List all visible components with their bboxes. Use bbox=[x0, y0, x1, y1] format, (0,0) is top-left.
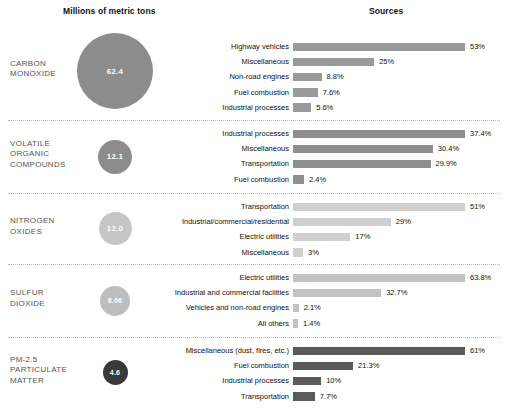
source-bar bbox=[293, 43, 465, 52]
source-row: Non-road engines8.8% bbox=[0, 71, 508, 82]
source-percent-value: 25% bbox=[379, 56, 394, 67]
section-divider bbox=[8, 264, 500, 265]
source-label: Electric utilities bbox=[239, 272, 289, 283]
source-bar bbox=[293, 392, 315, 401]
source-bar bbox=[293, 160, 431, 169]
source-percent-value: 3% bbox=[308, 247, 319, 258]
source-bar bbox=[293, 218, 391, 227]
source-label: All others bbox=[258, 318, 289, 329]
source-bar bbox=[293, 289, 381, 298]
source-row: Electric utilities17% bbox=[0, 231, 508, 242]
source-row: Fuel combustion2.4% bbox=[0, 174, 508, 185]
source-row: Transportation29.9% bbox=[0, 158, 508, 169]
source-label: Transportation bbox=[241, 201, 289, 212]
source-percent-value: 7.7% bbox=[320, 391, 337, 402]
section-divider bbox=[8, 337, 500, 338]
source-label: Industrial processes bbox=[222, 102, 289, 113]
source-percent-value: 17% bbox=[355, 231, 370, 242]
source-percent-value: 29.9% bbox=[436, 158, 457, 169]
source-label: Non-road engines bbox=[229, 71, 289, 82]
section-divider bbox=[8, 120, 500, 121]
source-row: Miscellaneous (dust, fires, etc.)61% bbox=[0, 345, 508, 356]
source-bar bbox=[293, 58, 374, 67]
source-bar bbox=[293, 362, 353, 371]
source-row: All others1.4% bbox=[0, 318, 508, 329]
source-label: Electric utilities bbox=[239, 231, 289, 242]
source-row: Industrial processes10% bbox=[0, 375, 508, 386]
source-percent-value: 8.8% bbox=[327, 71, 344, 82]
source-percent-value: 29% bbox=[396, 216, 411, 227]
source-percent-value: 30.4% bbox=[438, 143, 459, 154]
column-header-sources: Sources bbox=[369, 6, 403, 16]
source-label: Miscellaneous (dust, fires, etc.) bbox=[186, 345, 289, 356]
source-row: Miscellaneous30.4% bbox=[0, 143, 508, 154]
source-row: Industrial processes5.6% bbox=[0, 102, 508, 113]
chart-header: Millions of metric tons Sources bbox=[0, 0, 508, 22]
source-bar bbox=[293, 175, 304, 184]
source-label: Miscellaneous bbox=[241, 143, 289, 154]
source-label: Industrial/commercial/residential bbox=[182, 216, 289, 227]
source-label: Transportation bbox=[241, 158, 289, 169]
source-label: Industrial and commercial facilities bbox=[175, 287, 289, 298]
source-percent-value: 32.7% bbox=[386, 287, 407, 298]
source-percent-value: 63.8% bbox=[470, 272, 491, 283]
source-row: Fuel combustion21.3% bbox=[0, 360, 508, 371]
source-percent-value: 1.4% bbox=[303, 318, 320, 329]
source-bar bbox=[293, 145, 433, 154]
source-percent-value: 10% bbox=[326, 375, 341, 386]
emissions-infographic: Millions of metric tons Sources CARBON M… bbox=[0, 0, 508, 408]
source-label: Fuel combustion bbox=[234, 360, 289, 371]
source-row: Electric utilities63.8% bbox=[0, 272, 508, 283]
source-label: Industrial processes bbox=[222, 128, 289, 139]
source-bar bbox=[293, 130, 465, 139]
source-row: Transportation7.7% bbox=[0, 391, 508, 402]
source-row: Highway vehicles53% bbox=[0, 41, 508, 52]
source-percent-value: 37.4% bbox=[470, 128, 491, 139]
source-bar bbox=[293, 377, 321, 386]
source-label: Fuel combustion bbox=[234, 87, 289, 98]
source-label: Industrial processes bbox=[222, 375, 289, 386]
source-bar bbox=[293, 103, 311, 112]
source-row: Miscellaneous3% bbox=[0, 247, 508, 258]
source-row: Industrial and commercial facilities32.7… bbox=[0, 287, 508, 298]
source-label: Highway vehicles bbox=[231, 41, 289, 52]
source-percent-value: 2.1% bbox=[304, 302, 321, 313]
source-bar bbox=[293, 233, 350, 242]
source-label: Vehicles and non-road engines bbox=[186, 302, 289, 313]
source-row: Industrial/commercial/residential29% bbox=[0, 216, 508, 227]
source-bar bbox=[293, 88, 318, 97]
source-bar bbox=[293, 274, 465, 283]
source-label: Miscellaneous bbox=[241, 247, 289, 258]
source-label: Transportation bbox=[241, 391, 289, 402]
source-percent-value: 51% bbox=[470, 201, 485, 212]
source-bar bbox=[293, 347, 465, 356]
source-row: Transportation51% bbox=[0, 201, 508, 212]
source-row: Fuel combustion7.6% bbox=[0, 87, 508, 98]
source-percent-value: 7.6% bbox=[323, 87, 340, 98]
source-row: Industrial processes37.4% bbox=[0, 128, 508, 139]
source-bar bbox=[293, 73, 322, 82]
source-row: Miscellaneous25% bbox=[0, 56, 508, 67]
source-bar bbox=[293, 319, 298, 328]
column-header-tons: Millions of metric tons bbox=[63, 6, 156, 16]
section-divider bbox=[8, 193, 500, 194]
source-percent-value: 21.3% bbox=[358, 360, 379, 371]
source-percent-value: 53% bbox=[470, 41, 485, 52]
source-label: Fuel combustion bbox=[234, 174, 289, 185]
source-bar bbox=[293, 304, 299, 313]
source-percent-value: 5.6% bbox=[316, 102, 333, 113]
source-label: Miscellaneous bbox=[241, 56, 289, 67]
source-percent-value: 2.4% bbox=[309, 174, 326, 185]
source-row: Vehicles and non-road engines2.1% bbox=[0, 302, 508, 313]
source-bar bbox=[293, 248, 303, 257]
source-percent-value: 61% bbox=[470, 345, 485, 356]
source-bar bbox=[293, 203, 465, 212]
